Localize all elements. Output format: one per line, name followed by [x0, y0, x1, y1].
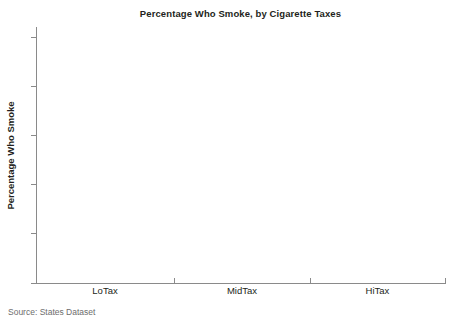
x-axis-tick	[445, 278, 446, 284]
x-axis-line	[36, 283, 446, 284]
chart-figure: Percentage Who Smoke, by Cigarette Taxes…	[0, 0, 458, 321]
y-axis-tick	[31, 184, 37, 185]
x-axis-tick-label-midtax: MidTax	[174, 285, 310, 296]
x-axis-tick	[174, 278, 175, 284]
y-axis-line	[36, 27, 37, 284]
x-axis-tick	[310, 278, 311, 284]
plot-area	[36, 27, 445, 283]
y-axis-tick	[31, 86, 37, 87]
source-note: Source: States Dataset	[8, 307, 95, 317]
y-axis-tick	[31, 233, 37, 234]
chart-title: Percentage Who Smoke, by Cigarette Taxes	[36, 8, 445, 19]
x-axis-tick	[36, 278, 37, 284]
y-axis-label-container: Percentage Who Smoke	[0, 27, 20, 283]
x-axis-tick-label-lotax: LoTax	[36, 285, 174, 296]
y-axis-tick	[31, 135, 37, 136]
y-axis-tick	[31, 37, 37, 38]
x-axis-tick-label-hitax: HiTax	[310, 285, 445, 296]
y-axis-label: Percentage Who Smoke	[5, 101, 16, 209]
